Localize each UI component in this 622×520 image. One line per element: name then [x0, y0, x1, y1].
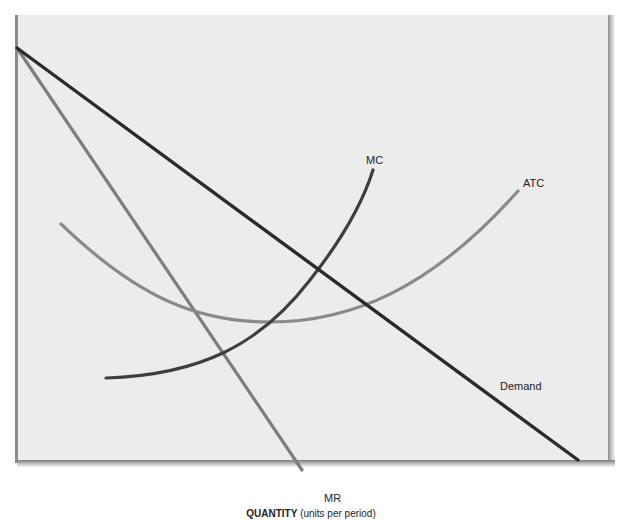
mr-curve: [17, 48, 302, 470]
demand-curve: [17, 48, 578, 460]
mc-label: MC: [366, 154, 383, 166]
demand-label: Demand: [500, 380, 542, 392]
x-axis-title: QUANTITY (units per period): [0, 508, 622, 519]
mr-label: MR: [324, 492, 341, 504]
x-axis-title-bold: QUANTITY: [246, 508, 297, 519]
x-axis-title-units: (units per period): [297, 508, 375, 519]
atc-label: ATC: [523, 177, 544, 189]
mc-curve: [106, 170, 373, 378]
curves-canvas: [0, 0, 622, 520]
